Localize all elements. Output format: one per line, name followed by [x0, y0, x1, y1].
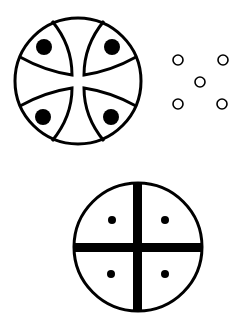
dot: [103, 109, 119, 125]
cross-horizontal-bar: [74, 243, 202, 252]
small-circle: [173, 99, 183, 109]
quincunx-small-circles: [173, 55, 228, 109]
small-circle: [217, 99, 227, 109]
dot: [161, 216, 169, 224]
diagram-canvas: [0, 0, 235, 330]
small-circle: [173, 55, 183, 65]
dot: [104, 39, 120, 55]
quartered-circle: [74, 183, 202, 311]
dot: [161, 270, 169, 278]
ornate-cross-dots: [35, 39, 120, 125]
dot: [107, 270, 115, 278]
ornate-cross-circle: [15, 18, 141, 144]
dot: [36, 39, 52, 55]
small-circle: [218, 55, 228, 65]
small-circle: [195, 77, 205, 87]
dot: [35, 109, 51, 125]
dot: [108, 216, 116, 224]
outer-circle: [15, 18, 141, 144]
